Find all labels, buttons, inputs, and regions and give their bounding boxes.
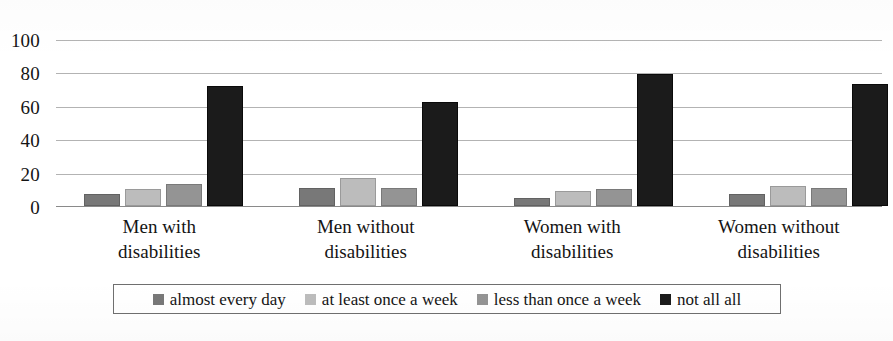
bar <box>852 84 888 206</box>
bar-chart: 100 80 60 40 20 0 Men with disabilities … <box>0 0 893 341</box>
bar <box>207 86 243 206</box>
bar <box>555 191 591 206</box>
plot-canvas <box>56 40 882 207</box>
y-axis: 100 80 60 40 20 0 <box>0 0 46 215</box>
category-label-line1: Women without <box>718 216 839 237</box>
legend-item-3[interactable]: not all all <box>660 291 741 308</box>
y-tick-label: 40 <box>21 131 40 150</box>
y-tick-label: 80 <box>21 64 40 83</box>
category-label-line2: disabilities <box>676 239 883 264</box>
legend-swatch-icon <box>660 294 671 305</box>
legend-swatch-icon <box>153 294 164 305</box>
category-label-line1: Men without <box>317 216 415 237</box>
bar-group-2 <box>486 39 701 206</box>
bar <box>340 178 376 206</box>
legend-item-1[interactable]: at least once a week <box>305 291 458 308</box>
bar-groups <box>56 39 882 206</box>
category-label-0: Men with disabilities <box>56 214 263 276</box>
x-axis-category-labels: Men with disabilities Men without disabi… <box>56 214 882 276</box>
bar <box>166 184 202 206</box>
y-tick-label: 100 <box>11 31 40 50</box>
category-label-line1: Men with <box>123 216 196 237</box>
legend-label: almost every day <box>170 291 286 308</box>
plot-area: 100 80 60 40 20 0 <box>0 0 893 215</box>
category-label-1: Men without disabilities <box>263 214 470 276</box>
bar <box>596 189 632 206</box>
category-label-line2: disabilities <box>469 239 676 264</box>
legend-label: less than once a week <box>494 291 641 308</box>
legend-label: at least once a week <box>322 291 458 308</box>
legend-swatch-icon <box>305 294 316 305</box>
y-tick-label: 20 <box>21 165 40 184</box>
y-tick-label: 0 <box>30 198 40 217</box>
bar <box>381 188 417 206</box>
bar <box>514 198 550 206</box>
bar <box>422 102 458 206</box>
bar <box>729 194 765 206</box>
legend-swatch-icon <box>477 294 488 305</box>
bar-group-1 <box>271 39 486 206</box>
bar-group-0 <box>56 39 271 206</box>
bar <box>125 189 161 206</box>
y-tick-label: 60 <box>21 98 40 117</box>
category-label-line2: disabilities <box>263 239 470 264</box>
bar <box>637 74 673 206</box>
legend-item-0[interactable]: almost every day <box>153 291 286 308</box>
bar <box>811 188 847 206</box>
bar <box>299 188 335 206</box>
bar <box>84 194 120 206</box>
chart-legend: almost every dayat least once a weekless… <box>113 284 781 314</box>
legend-item-2[interactable]: less than once a week <box>477 291 641 308</box>
bar <box>770 186 806 206</box>
legend-label: not all all <box>677 291 741 308</box>
category-label-2: Women with disabilities <box>469 214 676 276</box>
category-label-3: Women without disabilities <box>676 214 883 276</box>
category-label-line2: disabilities <box>56 239 263 264</box>
category-label-line1: Women with <box>524 216 621 237</box>
axis-baseline <box>56 206 882 207</box>
bar-group-3 <box>701 39 893 206</box>
